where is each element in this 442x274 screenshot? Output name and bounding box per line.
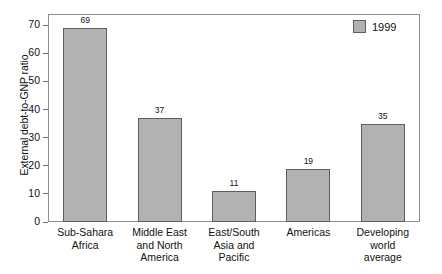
bar-value-label: 37 (155, 105, 164, 115)
tick-label: 30 (28, 131, 40, 143)
x-label-line: and North (122, 239, 196, 252)
legend-swatch-1999 (353, 20, 366, 33)
x-label-line: average (346, 251, 420, 264)
bar-chart: External debt-to-GNP ratio 0102030405060… (0, 0, 442, 274)
bar-value-label: 35 (378, 111, 387, 121)
bar-group: 69 (48, 14, 122, 222)
bar-group: 11 (197, 14, 271, 222)
legend-label-1999: 1999 (372, 21, 396, 33)
bars-layer: 6937111935 (48, 14, 420, 222)
x-label-1: Sub-SaharaAfrica (48, 226, 122, 251)
x-label-line: Pacific (197, 251, 271, 264)
x-label-line: Africa (48, 239, 122, 252)
tick-label: 60 (28, 46, 40, 58)
x-label-5: Developingworldaverage (346, 226, 420, 264)
bar-group: 37 (122, 14, 196, 222)
bar[interactable] (361, 124, 405, 222)
x-label-line: America (122, 251, 196, 264)
tick-label: 20 (28, 159, 40, 171)
bar-value-label: 69 (80, 15, 89, 25)
x-label-2: Middle Eastand NorthAmerica (122, 226, 196, 264)
bar-group: 35 (346, 14, 420, 222)
tick-label: 10 (28, 187, 40, 199)
bar-value-label: 19 (304, 156, 313, 166)
x-label-4: Americas (271, 226, 345, 239)
bar-group: 19 (271, 14, 345, 222)
x-label-line: Developing (346, 226, 420, 239)
tick-label: 40 (28, 103, 40, 115)
legend: 1999 (349, 18, 400, 35)
x-label-line: Americas (271, 226, 345, 239)
tick-label: 50 (28, 74, 40, 86)
bar[interactable] (286, 169, 330, 222)
x-label-3: East/SouthAsia andPacific (197, 226, 271, 264)
bar[interactable] (212, 191, 256, 222)
x-axis-labels: Sub-SaharaAfricaMiddle Eastand NorthAmer… (48, 226, 420, 274)
x-label-line: Middle East (122, 226, 196, 239)
bar[interactable] (138, 118, 182, 222)
bar-value-label: 11 (230, 178, 239, 188)
x-label-line: Asia and (197, 239, 271, 252)
bar[interactable] (63, 28, 107, 222)
x-label-line: Sub-Sahara (48, 226, 122, 239)
tick-label: 0 (34, 215, 40, 227)
x-label-line: East/South (197, 226, 271, 239)
tick-label: 70 (28, 18, 40, 30)
x-label-line: world (346, 239, 420, 252)
